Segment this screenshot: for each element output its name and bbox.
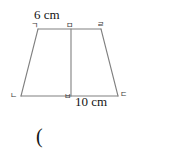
geometry-figure-page: ㄱ ㅁ ㄹ ㄴ ㅂ ㄷ 6 cm 10 cm ( [0, 0, 190, 155]
vertex-label-bottom-mid: ㅂ [64, 93, 71, 101]
trapezoid-left-side [21, 29, 38, 96]
vertex-label-bottom-right: ㄷ [120, 91, 127, 99]
trapezoid-right-side [101, 29, 118, 96]
bottom-side-measurement: 10 cm [75, 95, 107, 108]
trapezoid-diagram [0, 0, 190, 155]
vertex-label-top-mid: ㅁ [66, 22, 73, 30]
vertex-label-bottom-left: ㄴ [10, 92, 17, 100]
vertex-label-top-left: ㄱ [31, 22, 38, 30]
answer-parenthesis: ( [36, 126, 43, 146]
top-side-measurement: 6 cm [34, 8, 60, 21]
vertex-label-top-right: ㄹ [97, 21, 104, 29]
